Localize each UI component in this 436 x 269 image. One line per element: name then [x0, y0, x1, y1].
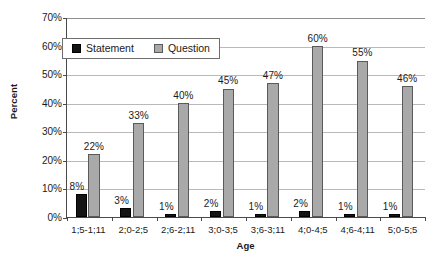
bar-value-label-question: 55% [352, 48, 373, 58]
bar-value-label-statement: 3% [112, 196, 132, 206]
bar-statement[interactable] [120, 208, 131, 217]
bar-question[interactable] [267, 83, 278, 217]
x-axis-tick-label: 4;0-4;5 [290, 224, 335, 235]
bar-value-label-question: 22% [83, 142, 104, 152]
x-axis-tick-mark [246, 217, 247, 221]
y-axis-title: Percent [8, 67, 19, 137]
x-axis-tick-mark [425, 217, 426, 221]
x-axis-tick-label: 5;0-5;5 [380, 224, 425, 235]
y-axis-tick-label: 20% [32, 156, 62, 166]
x-axis-tick-mark [336, 217, 337, 221]
bar-question[interactable] [402, 86, 413, 217]
legend-swatch-statement-icon [72, 44, 81, 53]
bar-value-label-statement: 1% [336, 202, 356, 212]
bar-value-label-statement: 8% [67, 182, 87, 192]
bar-group: 1%46% [380, 18, 425, 217]
x-axis-title: Age [66, 240, 425, 251]
x-axis-tick-mark [157, 217, 158, 221]
x-axis-tick-label: 4;6-4;11 [335, 224, 380, 235]
bar-value-label-question: 45% [217, 76, 238, 86]
bar-value-label-question: 46% [396, 74, 417, 84]
bar-statement[interactable] [76, 194, 87, 217]
bar-statement[interactable] [299, 211, 310, 217]
bar-question[interactable] [178, 103, 189, 217]
bar-group: 1%47% [246, 18, 291, 217]
bar-statement[interactable] [389, 214, 400, 217]
bar-value-label-question: 47% [262, 71, 283, 81]
bar-value-label-statement: 2% [291, 199, 311, 209]
bar-statement[interactable] [255, 214, 266, 217]
bar-question[interactable] [357, 61, 368, 217]
x-axis-tick-mark [67, 217, 68, 221]
bar-question[interactable] [312, 46, 323, 217]
bar-value-label-statement: 1% [380, 202, 400, 212]
legend-label-statement: Statement [86, 43, 134, 54]
x-axis-tick-labels: 1;5-1;112;0-2;52;6-2;113;0-3;53;6-3;114;… [66, 224, 425, 235]
x-axis-tick-label: 2;0-2;5 [111, 224, 156, 235]
bar-question[interactable] [133, 123, 144, 217]
x-axis-tick-label: 3;6-3;11 [246, 224, 291, 235]
legend-swatch-question-icon [154, 44, 163, 53]
bar-question[interactable] [223, 89, 234, 217]
legend-item-statement: Statement [72, 43, 134, 54]
bar-value-label-statement: 2% [201, 199, 221, 209]
bar-chart: Percent 70%60%50%40%30%20%10%0% 8%22%3%3… [0, 0, 436, 269]
y-axis-tick-label: 70% [32, 13, 62, 23]
bar-value-label-question: 40% [173, 91, 194, 101]
x-axis-tick-mark [201, 217, 202, 221]
bar-value-label-question: 33% [128, 111, 149, 121]
bar-group: 1%55% [336, 18, 381, 217]
x-axis-tick-mark [112, 217, 113, 221]
y-axis-tick-label: 40% [32, 99, 62, 109]
bar-group: 2%60% [291, 18, 336, 217]
bar-value-label-question: 60% [307, 34, 328, 44]
legend-label-question: Question [168, 43, 210, 54]
y-axis-tick-label: 10% [32, 184, 62, 194]
chart-legend: Statement Question [62, 38, 220, 59]
x-axis-tick-mark [291, 217, 292, 221]
y-axis-tick-label: 0% [32, 213, 62, 223]
bar-statement[interactable] [344, 214, 355, 217]
y-axis-tick-labels: 70%60%50%40%30%20%10%0% [30, 0, 62, 269]
x-axis-tick-label: 2;6-2;11 [156, 224, 201, 235]
x-axis-tick-label: 3;0-3;5 [201, 224, 246, 235]
bar-value-label-statement: 1% [246, 202, 266, 212]
x-axis-tick-mark [380, 217, 381, 221]
bar-value-label-statement: 1% [157, 202, 177, 212]
bar-statement[interactable] [165, 214, 176, 217]
y-axis-tick-label: 30% [32, 127, 62, 137]
legend-item-question: Question [154, 43, 210, 54]
bar-statement[interactable] [210, 211, 221, 217]
y-axis-tick-label: 60% [32, 42, 62, 52]
x-axis-tick-label: 1;5-1;11 [66, 224, 111, 235]
bar-question[interactable] [88, 154, 99, 217]
y-axis-tick-label: 50% [32, 70, 62, 80]
